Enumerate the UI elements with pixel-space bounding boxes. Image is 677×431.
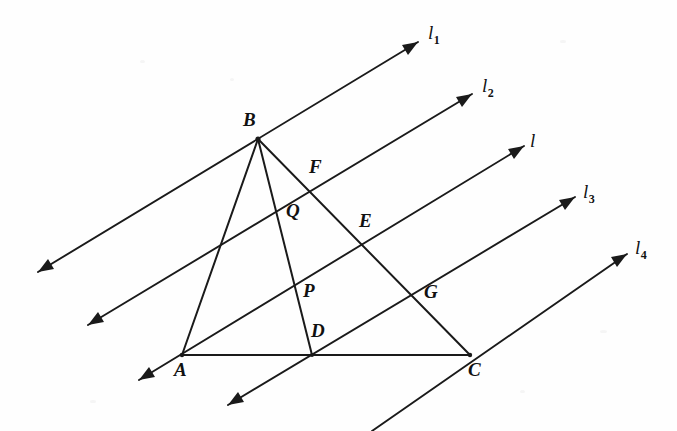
line-l1-arrowhead-start <box>38 259 54 272</box>
label-line-l-base: l <box>530 130 535 151</box>
parallel-line-l4 <box>372 254 627 431</box>
label-line-l1-subscript: 1 <box>434 33 440 47</box>
parallel-line-l2 <box>88 94 472 325</box>
label-point-F: F <box>309 157 322 176</box>
label-point-G: G <box>424 282 438 301</box>
line-l1-arrowhead-end <box>402 42 418 55</box>
label-line-l2-base: l <box>482 75 487 96</box>
label-vertex-B: B <box>243 110 256 129</box>
line-l2-stroke <box>88 94 472 325</box>
line-l-arrowhead-start <box>139 367 155 380</box>
label-point-D: D <box>311 321 325 340</box>
label-line-l3-base: l <box>583 181 588 202</box>
line-l3-arrowhead-end <box>559 197 575 210</box>
label-line-l3: l3 <box>583 182 595 205</box>
label-point-Q: Q <box>286 201 300 220</box>
vertex-dot-A <box>180 353 184 357</box>
cevian-BD <box>258 139 312 355</box>
label-line-l4: l4 <box>635 238 647 261</box>
line-l4-stroke <box>372 254 627 431</box>
label-vertex-A: A <box>174 360 187 379</box>
label-line-l2: l2 <box>482 76 494 99</box>
label-line-l1: l1 <box>428 23 440 46</box>
label-line-l2-subscript: 2 <box>488 86 494 100</box>
line-l4-arrowhead-end <box>611 254 627 267</box>
geometry-canvas <box>0 0 677 431</box>
vertex-dot-B <box>255 136 260 141</box>
line-l3-arrowhead-start <box>228 392 244 405</box>
label-line-l4-base: l <box>635 237 640 258</box>
line-l2-arrowhead-end <box>456 94 472 107</box>
triangle-abc <box>182 139 470 355</box>
vertex-dot-C <box>468 353 472 357</box>
label-line-l3-subscript: 3 <box>589 192 595 206</box>
label-line-l: l <box>530 131 536 154</box>
label-vertex-C: C <box>468 360 481 379</box>
line-l2-arrowhead-start <box>88 312 104 325</box>
label-point-E: E <box>359 211 372 230</box>
label-line-l1-base: l <box>428 22 433 43</box>
vertex-dot-D <box>310 353 314 357</box>
label-line-l4-subscript: 4 <box>641 248 647 262</box>
label-point-P: P <box>303 281 315 300</box>
geometry-figure: A B C D P Q E F G l1 l2 l l3 l4 <box>0 0 677 431</box>
line-l1-stroke <box>38 42 418 272</box>
triangle-side-AB <box>182 139 258 355</box>
parallel-line-l1 <box>38 42 418 272</box>
line-l-arrowhead-end <box>508 146 524 159</box>
